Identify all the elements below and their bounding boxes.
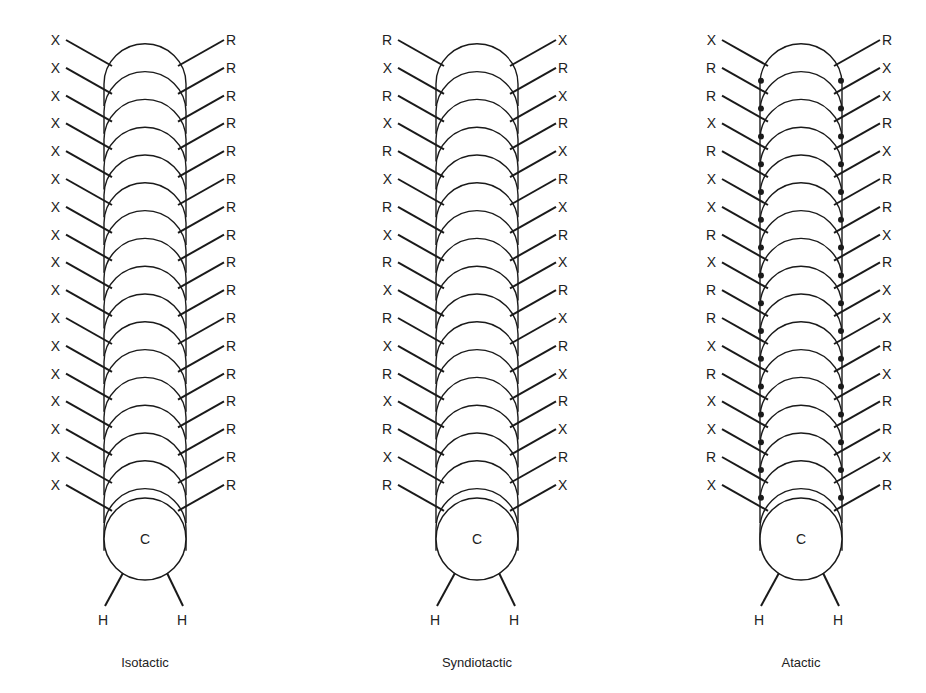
captions-layer: Isotactic Syndiotactic Atactic: [0, 0, 926, 693]
caption-syndiotactic: Syndiotactic: [442, 655, 513, 670]
caption-atactic: Atactic: [781, 655, 821, 670]
caption-isotactic: Isotactic: [121, 655, 169, 670]
